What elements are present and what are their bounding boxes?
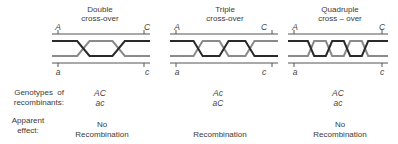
panel-3-title-line2: cross – over — [305, 14, 375, 23]
effect-label-line1: Apparent — [0, 116, 56, 126]
panel-1-light-strand — [52, 41, 150, 56]
panel-3-effect-line1: No — [305, 120, 375, 130]
panel-1-dark-strand — [52, 41, 150, 56]
panel-3-genotype-2: ac — [326, 98, 350, 108]
panel-3-genotypes: AC ac — [326, 88, 350, 108]
panel-1-gene-C: C — [142, 22, 152, 32]
panel-2-dark-strand — [170, 41, 278, 56]
panel-2-genotype-2: aC — [206, 98, 230, 108]
panel-3-title-line1: Quadruple — [305, 5, 375, 14]
panel-2-gene-C: C — [259, 22, 269, 32]
panel-2-title-line1: Triple — [195, 5, 255, 14]
panel-2-genotypes: Ac aC — [206, 88, 230, 108]
panel-2-gene-a: a — [172, 67, 182, 77]
genotypes-label-line1: Genotypes of — [0, 88, 64, 98]
panel-1-title-line1: Double — [70, 5, 130, 14]
panel-1-gene-a: a — [53, 67, 63, 77]
panel-3-effect-line2: Recombination — [305, 130, 375, 140]
effect-row-label: Apparent effect: — [0, 116, 56, 136]
panel-1-effect-line2: Recombination — [70, 130, 134, 140]
panel-3-dark-strand — [288, 41, 388, 56]
panel-3-gene-C: C — [377, 22, 387, 32]
panel-2-title: Triple cross-over — [195, 5, 255, 23]
panel-2-gene-c: c — [259, 67, 269, 77]
panel-3-effect: No Recombination — [305, 120, 375, 140]
panel-1-gene-A: A — [53, 22, 63, 32]
panel-1-title-line2: cross-over — [70, 14, 130, 23]
panel-2-genotype-1: Ac — [206, 88, 230, 98]
panel-1-genotype-2: ac — [88, 98, 112, 108]
panel-1-effect: No Recombination — [70, 120, 134, 140]
panel-2-effect: Recombination — [185, 130, 255, 140]
panel-2-title-line2: cross-over — [195, 14, 255, 23]
panel-1-title: Double cross-over — [70, 5, 130, 23]
panel-1-gene-c: c — [142, 67, 152, 77]
panel-2-gene-A: A — [172, 22, 182, 32]
panel-3-genotype-1: AC — [326, 88, 350, 98]
panel-3-title: Quadruple cross – over — [305, 5, 375, 23]
panel-3-gene-a: a — [290, 67, 300, 77]
panel-2-effect-line2: Recombination — [185, 130, 255, 140]
effect-label-line2: effect: — [0, 126, 56, 136]
panel-3-light-strand — [288, 41, 388, 56]
panel-3-gene-c: c — [377, 67, 387, 77]
panel-3-gene-A: A — [290, 22, 300, 32]
genotypes-row-label: Genotypes of recombinants: — [0, 88, 64, 108]
panel-1-genotypes: AC ac — [88, 88, 112, 108]
genotypes-label-line2: recombinants: — [0, 98, 64, 108]
panel-1-genotype-1: AC — [88, 88, 112, 98]
panel-1-effect-line1: No — [70, 120, 134, 130]
